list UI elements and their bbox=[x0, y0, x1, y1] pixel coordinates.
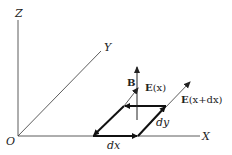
y-axis-label: Y bbox=[104, 41, 113, 54]
b-field-label: B bbox=[127, 77, 135, 88]
dy-label: dy bbox=[156, 116, 170, 129]
y-axis bbox=[18, 51, 101, 136]
x-axis-label: X bbox=[201, 130, 211, 143]
origin-label: O bbox=[6, 135, 15, 148]
e-x-label: E(x) bbox=[145, 82, 166, 93]
z-axis-label: Z bbox=[14, 7, 23, 20]
e-x-field-line bbox=[124, 88, 138, 106]
dx-label: dx bbox=[107, 139, 121, 152]
faraday-loop-diagram: Z Y X O B E(x) E(x+dx) dx dy bbox=[0, 0, 232, 155]
e-x-dx-label: E(x+dx) bbox=[181, 94, 223, 105]
